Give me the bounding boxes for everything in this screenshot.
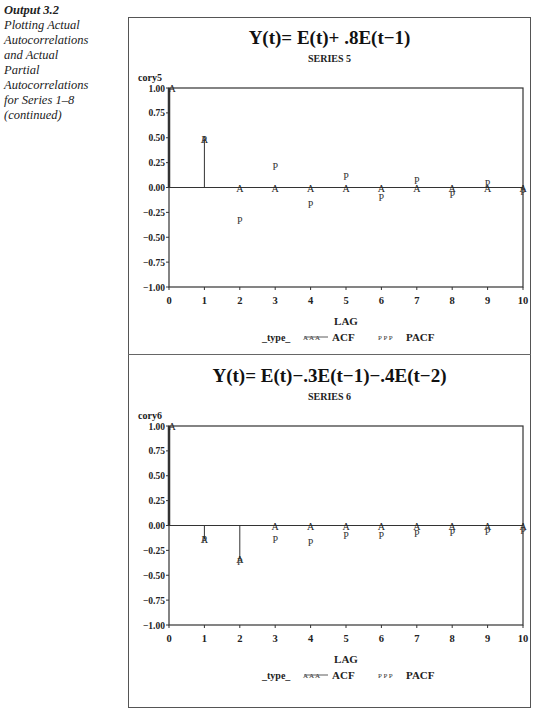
x-tick-label: 6 <box>379 633 384 644</box>
pacf-point: P <box>485 178 491 189</box>
x-tick-label: 9 <box>485 295 490 306</box>
x-tick-label: 9 <box>485 633 490 644</box>
y-tick-label: 0.50 <box>148 471 165 481</box>
x-tick-label: 0 <box>166 295 171 306</box>
plot-area: 1.000.750.500.250.00−0.25−0.50−0.75−1.00… <box>128 355 531 708</box>
pacf-point: P <box>202 534 208 545</box>
pacf-point: P <box>414 175 420 186</box>
acf-point: A <box>236 183 244 194</box>
pacf-point: P <box>414 528 420 539</box>
x-tick-label: 8 <box>450 633 455 644</box>
legend-pacf-symbol: P P P <box>378 334 393 342</box>
legend-pacf-label: PACF <box>406 331 435 343</box>
acf-point: A <box>168 83 176 94</box>
y-tick-label: −0.25 <box>143 546 165 556</box>
x-tick-label: 2 <box>237 295 242 306</box>
pacf-point: P <box>520 186 526 197</box>
y-tick-label: 0.00 <box>148 183 165 193</box>
pacf-point: P <box>449 189 455 200</box>
pacf-point: P <box>343 530 349 541</box>
caption-line: (continued) <box>4 108 124 123</box>
x-tick-label: 0 <box>166 633 171 644</box>
x-tick-label: 1 <box>202 633 207 644</box>
x-tick-label: 4 <box>308 295 314 306</box>
pacf-point: P <box>379 530 385 541</box>
chart-panel-series-6: Y(t)= E(t)−.3E(t−1)−.4E(t−2) SERIES 6 co… <box>128 355 531 708</box>
legend-acf-label: ACF <box>332 331 355 343</box>
x-tick-label: 7 <box>414 633 419 644</box>
acf-point: A <box>272 183 280 194</box>
x-tick-label: 3 <box>273 295 278 306</box>
acf-point: A <box>342 183 350 194</box>
y-tick-label: −0.75 <box>143 596 165 606</box>
x-tick-label: 7 <box>414 295 419 306</box>
y-tick-label: −0.75 <box>143 258 165 268</box>
chart-panel-series-5: Y(t)= E(t)+ .8E(t−1) SERIES 5 cory5 1.00… <box>128 17 531 354</box>
legend-acf-symbol: A A A <box>303 334 320 342</box>
acf-point: A <box>307 521 315 532</box>
x-tick-label: 10 <box>518 633 529 644</box>
x-tick-label: 5 <box>343 295 348 306</box>
y-tick-label: 0.75 <box>148 108 165 118</box>
caption-line: for Series 1–8 <box>4 93 124 108</box>
acf-point: A <box>168 421 176 432</box>
caption-line: Partial <box>4 63 124 78</box>
y-tick-label: 0.75 <box>148 446 165 456</box>
pacf-point: P <box>449 527 455 538</box>
x-tick-label: 4 <box>308 633 314 644</box>
legend-pacf-label: PACF <box>406 669 435 681</box>
y-tick-label: 1.00 <box>148 84 165 94</box>
x-axis-label: LAG <box>334 315 358 327</box>
legend-label: _type_ <box>261 670 291 681</box>
caption-heading: Output 3.2 <box>4 3 124 18</box>
pacf-point: P <box>272 534 278 545</box>
y-tick-label: 0.25 <box>148 158 165 168</box>
y-tick-label: −1.00 <box>143 283 165 293</box>
plot-area: 1.000.750.500.250.00−0.25−0.50−0.75−1.00… <box>128 17 531 354</box>
pacf-point: P <box>308 537 314 548</box>
caption-line: and Actual <box>4 48 124 63</box>
acf-point: A <box>307 183 315 194</box>
pacf-point: P <box>202 134 208 145</box>
x-tick-label: 8 <box>450 295 455 306</box>
pacf-point: P <box>343 171 349 182</box>
x-tick-label: 2 <box>237 633 242 644</box>
y-tick-label: 0.00 <box>148 521 165 531</box>
x-tick-label: 10 <box>518 295 529 306</box>
caption-line: Autocorrelations <box>4 33 124 48</box>
y-tick-label: −0.50 <box>143 233 165 243</box>
pacf-point: P <box>485 526 491 537</box>
legend-acf-label: ACF <box>332 669 355 681</box>
y-tick-label: 0.50 <box>148 133 165 143</box>
y-tick-label: −0.50 <box>143 571 165 581</box>
caption-line: Autocorrelations <box>4 78 124 93</box>
legend-label: _type_ <box>261 332 291 343</box>
caption-line: Plotting Actual <box>4 18 124 33</box>
acf-point: A <box>272 521 280 532</box>
pacf-point: P <box>308 199 314 210</box>
pacf-point: P <box>379 192 385 203</box>
y-tick-label: −1.00 <box>143 621 165 631</box>
y-tick-label: 0.25 <box>148 496 165 506</box>
y-tick-label: 1.00 <box>148 422 165 432</box>
pacf-point: P <box>520 525 526 536</box>
legend-pacf-symbol: P P P <box>378 672 393 680</box>
x-tick-label: 6 <box>379 295 384 306</box>
x-tick-label: 1 <box>202 295 207 306</box>
x-tick-label: 5 <box>343 633 348 644</box>
pacf-point: P <box>237 556 243 567</box>
pacf-point: P <box>237 215 243 226</box>
x-tick-label: 3 <box>273 633 278 644</box>
x-axis-label: LAG <box>334 653 358 665</box>
legend-acf-symbol: A A A <box>303 672 320 680</box>
pacf-point: P <box>272 161 278 172</box>
figure-caption: Output 3.2 Plotting Actual Autocorrelati… <box>4 3 124 123</box>
y-tick-label: −0.25 <box>143 208 165 218</box>
